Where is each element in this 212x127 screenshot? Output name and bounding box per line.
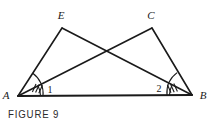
angle-label-1: 1: [48, 84, 53, 95]
segment-ae: [18, 28, 62, 96]
angle-label-2: 2: [157, 83, 162, 94]
vertex-label-a: A: [2, 89, 10, 101]
vertex-label-e: E: [57, 9, 65, 21]
segment-ab: [18, 95, 192, 96]
vertex-label-c: C: [147, 9, 155, 21]
angle-arc-a-outer: [33, 73, 43, 96]
vertex-label-b: B: [200, 89, 207, 101]
figure-container: A B E C 1 2 FIGURE 9: [0, 0, 212, 127]
angle-arc-b-outer: [167, 73, 177, 95]
figure-caption: FIGURE 9: [8, 108, 59, 120]
